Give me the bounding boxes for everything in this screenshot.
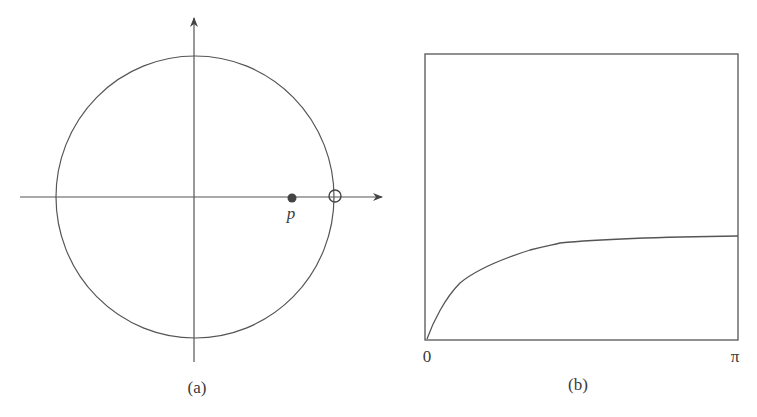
figure-canvas — [0, 0, 757, 417]
x-tick-pi: π — [731, 347, 740, 367]
open-point-marker — [329, 190, 341, 202]
x-tick-zero: 0 — [423, 347, 432, 367]
curve — [427, 236, 738, 339]
figure-a — [20, 18, 382, 362]
plot-frame — [425, 54, 738, 340]
point-p-label: p — [287, 204, 296, 224]
caption-b: (b) — [568, 375, 588, 395]
point-p-dot — [288, 194, 297, 203]
caption-a: (a) — [188, 378, 207, 398]
figure-b — [425, 54, 738, 340]
